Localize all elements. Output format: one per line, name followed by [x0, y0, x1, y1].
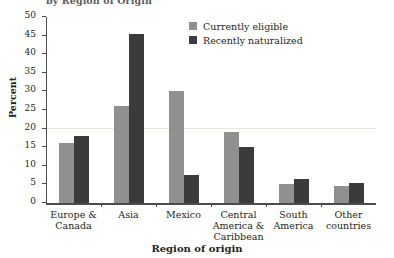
bar — [279, 184, 294, 203]
y-axis-tick-label: 0 — [30, 196, 36, 206]
legend-label: Currently eligible — [203, 21, 288, 32]
y-axis-title: Percent — [7, 68, 18, 128]
bar-group — [59, 17, 89, 203]
category-label-line: Other — [304, 209, 394, 220]
legend-item-recently-naturalized: Recently naturalized — [189, 33, 303, 47]
y-axis-tick-label: 15 — [25, 140, 36, 150]
y-axis-tick: 50 — [42, 16, 46, 17]
y-axis-tick: 25 — [42, 109, 46, 110]
y-axis-line — [46, 17, 47, 204]
y-axis-tick: 35 — [42, 72, 46, 73]
category-label-line: Canada — [29, 220, 119, 231]
x-axis-tick — [211, 203, 212, 207]
bar — [114, 106, 129, 203]
y-axis-tick-label: 5 — [30, 177, 36, 187]
y-axis-tick-label: 25 — [25, 103, 36, 113]
legend-label: Recently naturalized — [203, 35, 303, 46]
x-axis-tick — [101, 203, 102, 207]
y-axis-tick-label: 30 — [25, 84, 36, 94]
y-axis-tick: 10 — [42, 165, 46, 166]
x-axis-tick — [266, 203, 267, 207]
y-axis-tick-label: 45 — [25, 29, 36, 39]
y-axis-tick-label: 10 — [25, 159, 36, 169]
legend-item-currently-eligible: Currently eligible — [189, 19, 303, 33]
bar — [129, 34, 144, 203]
bar-group — [114, 17, 144, 203]
bar-group — [334, 17, 364, 203]
category-label-line: countries — [304, 220, 394, 231]
chart-subtitle: by Region of Origin — [46, 0, 152, 6]
y-axis-tick: 5 — [42, 183, 46, 184]
y-axis-tick: 15 — [42, 146, 46, 147]
legend-swatch-icon-dark — [189, 36, 197, 44]
x-axis-title: Region of origin — [0, 243, 394, 254]
y-axis-tick-label: 35 — [25, 66, 36, 76]
x-axis-tick — [156, 203, 157, 207]
y-axis-tick-label: 40 — [25, 47, 36, 57]
y-axis-tick: 0 — [42, 202, 46, 203]
x-axis-tick — [321, 203, 322, 207]
bar — [169, 91, 184, 203]
category-label-line: Caribbean — [194, 231, 284, 242]
bar — [224, 132, 239, 203]
y-axis-tick: 40 — [42, 53, 46, 54]
y-axis-tick: 30 — [42, 90, 46, 91]
y-axis-tick: 20 — [42, 128, 46, 129]
gridline-20 — [47, 128, 376, 129]
bar — [184, 175, 199, 203]
bar — [349, 183, 364, 203]
bar — [59, 143, 74, 203]
bar — [239, 147, 254, 203]
bar — [334, 186, 349, 203]
legend-swatch-icon-light — [189, 22, 197, 30]
y-axis-tick: 45 — [42, 35, 46, 36]
bar-chart-figure: by Region of Origin Percent 051015202530… — [0, 0, 394, 258]
bar — [74, 136, 89, 203]
y-axis-tick-label: 50 — [25, 10, 36, 20]
y-axis-tick-label: 20 — [25, 122, 36, 132]
x-axis-category-label: Othercountries — [304, 209, 394, 231]
chart-legend: Currently eligible Recently naturalized — [189, 19, 303, 47]
bar — [294, 179, 309, 203]
